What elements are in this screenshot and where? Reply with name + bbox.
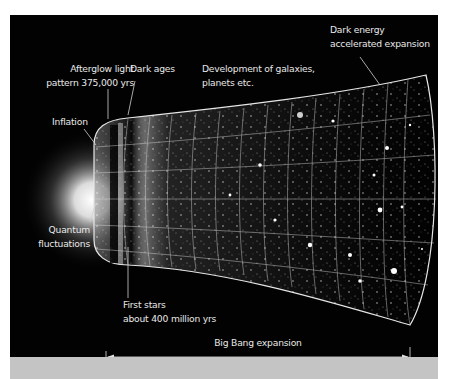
label-development-line2: planets etc. (202, 76, 315, 90)
label-quantum-line1: Quantum (34, 223, 90, 237)
label-quantum-fluctuations: Quantum fluctuations (34, 223, 90, 251)
label-dark-energy: Dark energy accelerated expansion (330, 23, 430, 51)
label-dark-energy-line2: accelerated expansion (330, 37, 430, 51)
label-afterglow-line2: pattern 375,000 yrs (44, 76, 134, 90)
bottom-gray-band (10, 357, 438, 379)
label-afterglow-line1: Afterglow light (44, 62, 134, 76)
label-dark-energy-line1: Dark energy (330, 23, 430, 37)
label-first-stars-line2: about 400 million yrs (123, 312, 216, 326)
label-first-stars-line1: First stars (123, 298, 216, 312)
label-inflation: Inflation (52, 115, 88, 129)
label-afterglow: Afterglow light pattern 375,000 yrs (44, 62, 134, 90)
label-quantum-line2: fluctuations (34, 237, 90, 251)
label-inflation-line1: Inflation (52, 115, 88, 129)
label-dark-ages: Dark ages (130, 62, 175, 76)
timeline-caption-top: Big Bang expansion (106, 336, 410, 350)
label-first-stars: First stars about 400 million yrs (123, 298, 216, 326)
illustration-panel: Afterglow light pattern 375,000 yrs Dark… (10, 15, 438, 357)
label-dark-ages-line1: Dark ages (130, 62, 175, 76)
label-development: Development of galaxies, planets etc. (202, 62, 315, 90)
label-development-line1: Development of galaxies, (202, 62, 315, 76)
